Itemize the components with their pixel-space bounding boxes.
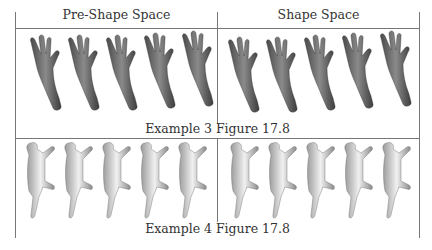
cats-shape-image [219,139,418,221]
cats-pre-shape-image [17,139,216,221]
cat-shapes-icon [17,139,216,221]
caption-example-3: Example 3 Figure 17.8 [16,121,419,137]
hand-shapes-icon [17,30,216,122]
hands-pre-shape-image [17,30,216,122]
cat-shapes-icon [219,139,418,221]
hands-shape-image [219,30,418,122]
column-header-shape: Shape Space [218,6,419,24]
right-border [419,12,420,238]
caption-example-4: Example 4 Figure 17.8 [16,221,419,237]
header-rule [15,28,420,29]
column-header-pre-shape: Pre-Shape Space [16,6,217,24]
hand-shapes-icon [219,30,418,122]
column-divider-bottom [217,138,218,222]
